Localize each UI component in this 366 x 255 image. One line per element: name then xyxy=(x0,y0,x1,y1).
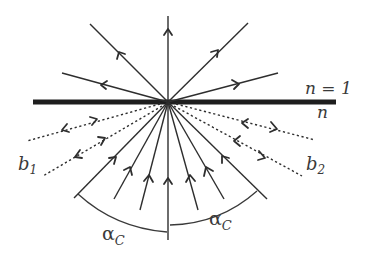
arc-alpha-left xyxy=(78,194,167,232)
refracted-rays xyxy=(62,16,278,102)
arrow-icon xyxy=(242,119,248,128)
incident-ray-3 xyxy=(168,102,198,210)
label-b1: b1 xyxy=(18,153,37,177)
arrow-icon xyxy=(222,156,229,163)
incident-ray-2 xyxy=(140,102,168,210)
refracted-ray-upper-right-steep xyxy=(168,23,248,102)
label-n-equals-1: n = 1 xyxy=(305,78,352,98)
label-b2: b2 xyxy=(306,153,325,177)
arrow-icon xyxy=(270,122,277,132)
incident-ray-1 xyxy=(114,102,168,199)
arrow-icon xyxy=(75,150,82,158)
refracted-ray-upper-right-shallow xyxy=(168,73,278,102)
refracted-ray-upper-left-shallow xyxy=(62,73,168,102)
incident-ray-critical-left xyxy=(74,102,168,198)
arrow-icon xyxy=(258,151,265,160)
beam-b2-upper xyxy=(176,104,315,140)
beam-b2-lower xyxy=(174,106,302,176)
refracted-ray-upper-left-steep xyxy=(90,24,168,102)
label-n: n xyxy=(317,102,328,122)
label-alpha-c-left: αC xyxy=(102,222,125,248)
incident-ray-critical-right xyxy=(168,102,267,199)
incident-ray-4 xyxy=(168,102,224,199)
arrow-icon xyxy=(90,117,97,125)
incident-rays xyxy=(74,102,267,240)
arrow-icon xyxy=(62,124,69,132)
critical-angle-diagram: n = 1 n b1 b2 αC αC xyxy=(0,0,366,255)
